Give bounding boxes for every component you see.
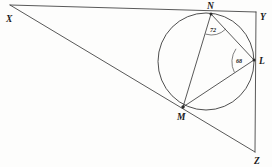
vertex-dot-M bbox=[181, 105, 184, 108]
chord-NM bbox=[183, 14, 211, 107]
segment-XY bbox=[10, 5, 256, 12]
chord-ML bbox=[183, 60, 254, 107]
segment-YZ bbox=[255, 12, 256, 152]
vertex-label-Y: Y bbox=[260, 12, 267, 22]
geometry-canvas: X Y Z N L M 72 68 bbox=[0, 0, 272, 167]
vertex-label-N: N bbox=[206, 1, 215, 11]
angle-label-L: 68 bbox=[236, 57, 242, 64]
vertex-label-M: M bbox=[176, 112, 186, 122]
angle-label-N: 72 bbox=[210, 26, 216, 33]
vertex-dot-N bbox=[210, 13, 213, 16]
vertex-label-Z: Z bbox=[253, 156, 260, 166]
segment-XZ bbox=[10, 5, 255, 152]
vertex-label-X: X bbox=[5, 14, 13, 24]
vertex-label-L: L bbox=[258, 56, 265, 66]
geometry-figure: X Y Z N L M 72 68 bbox=[0, 0, 272, 167]
vertex-dot-L bbox=[253, 59, 256, 62]
